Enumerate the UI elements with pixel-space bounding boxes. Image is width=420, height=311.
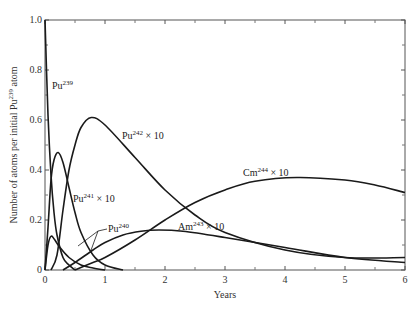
label-pu240: Pu240 [108,222,130,234]
y-tick-label: 0.4 [30,164,43,175]
x-tick-label: 1 [103,274,108,285]
y-tick-label: 0.8 [30,64,43,75]
y-axis-title: Number of atoms per initial Pu239 atom [7,66,19,223]
x-axis-title: Years [214,289,236,300]
y-tick-label: 0 [37,264,42,275]
curve-labels: Pu239Pu240Pu241 × 10Pu242 × 10Am243 × 10… [52,79,289,253]
label-pu242: Pu242 × 10 [122,129,164,141]
label-pu239: Pu239 [52,79,74,91]
x-tick-label: 0 [43,274,48,285]
label-cm244: Cm244 × 10 [243,166,289,178]
y-tick-label: 1.0 [30,14,43,25]
curves [45,20,405,270]
y-tick-label: 0.6 [30,114,43,125]
x-tick-label: 5 [343,274,348,285]
x-tick-label: 6 [403,274,408,285]
decay-chain-chart: 012345600.20.40.60.81.0 Pu239Pu240Pu241 … [0,0,420,311]
y-tick-label: 0.2 [30,214,43,225]
x-tick-label: 2 [163,274,168,285]
label-pu241: Pu241 × 10 [73,192,115,204]
label-am243: Am243 × 10 [178,220,224,232]
x-tick-label: 3 [223,274,228,285]
x-tick-label: 4 [283,274,288,285]
